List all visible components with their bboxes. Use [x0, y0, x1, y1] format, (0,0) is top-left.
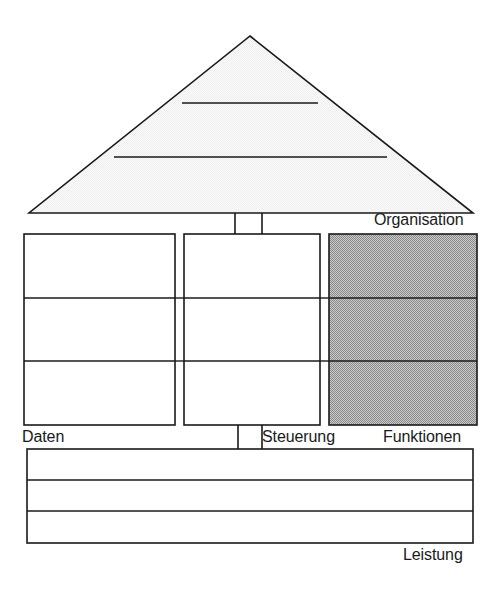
funktionen-box[interactable] [329, 234, 477, 425]
label-steuerung: Steuerung [262, 428, 335, 446]
column-daten[interactable] [24, 234, 175, 425]
label-daten: Daten [22, 428, 64, 446]
label-leistung: Leistung [403, 546, 463, 564]
label-funktionen: Funktionen [383, 428, 461, 446]
leistung-box[interactable] [27, 449, 473, 543]
base-leistung[interactable] [27, 449, 473, 543]
connector-daten-steuerung [175, 298, 184, 361]
roof-organisation[interactable] [29, 36, 473, 213]
label-organisation: Organisation [374, 211, 464, 229]
diagram-canvas: Organisation Daten Steuerung Funktionen … [0, 0, 501, 602]
aris-house-diagram [0, 0, 501, 602]
connector-roof-to-steuerung [235, 213, 262, 234]
connector-steuerung-to-leistung [238, 425, 262, 449]
column-steuerung[interactable] [184, 234, 320, 425]
roof-triangle[interactable] [29, 36, 473, 213]
column-funktionen[interactable] [329, 234, 477, 425]
steuerung-box[interactable] [184, 234, 320, 425]
connector-steuerung-funktionen [320, 298, 329, 361]
daten-box[interactable] [24, 234, 175, 425]
